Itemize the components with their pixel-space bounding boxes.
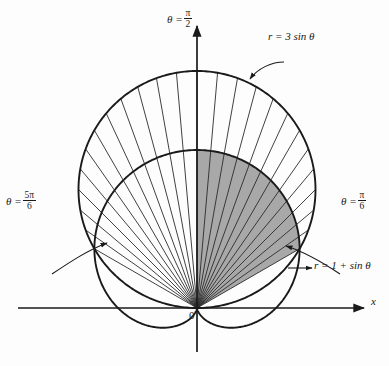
label-curve-circle: r = 3 sin θ bbox=[268, 31, 314, 42]
label-theta-pi-over-2: θ =π2 bbox=[167, 8, 193, 30]
leader-theta-5pi6 bbox=[52, 243, 107, 274]
label-origin: 0 bbox=[189, 310, 195, 321]
fraction-pi-2: π2 bbox=[184, 8, 193, 30]
leader-circle bbox=[250, 62, 284, 79]
radial-line bbox=[176, 73, 197, 308]
fraction-5pi-6: 5π6 bbox=[23, 190, 37, 212]
label-x-axis: x bbox=[371, 296, 376, 307]
theta-symbol: θ = bbox=[341, 195, 357, 207]
shaded-region bbox=[197, 150, 300, 308]
radial-line bbox=[138, 87, 197, 308]
fraction-pi-6: π6 bbox=[358, 190, 367, 212]
theta-symbol: θ = bbox=[6, 195, 22, 207]
label-theta-5pi-over-6: θ =5π6 bbox=[6, 190, 37, 212]
theta-symbol: θ = bbox=[167, 13, 183, 25]
label-theta-pi-over-6: θ =π6 bbox=[341, 190, 367, 212]
label-curve-cardioid: r = 1 + sin θ bbox=[314, 260, 371, 271]
